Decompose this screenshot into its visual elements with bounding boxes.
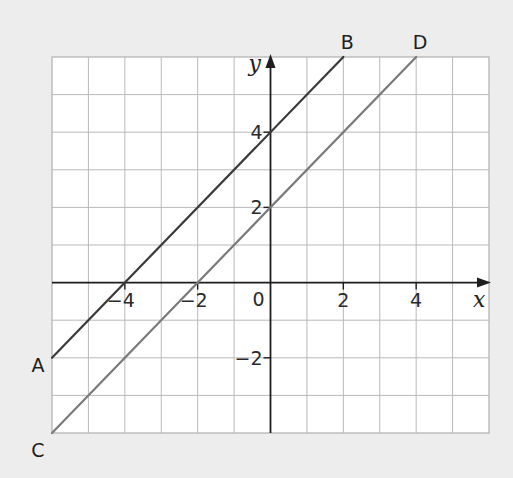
x-axis-label: x <box>473 287 486 312</box>
point-label-b: B <box>341 31 354 53</box>
x-tick-label: 2 <box>337 289 349 311</box>
x-tick-label: 4 <box>410 289 422 311</box>
y-tick-label: 4 <box>250 121 262 143</box>
y-tick-label: 2 <box>250 196 262 218</box>
x-tick-label: −2 <box>180 289 208 311</box>
y-axis-label: y <box>248 51 262 76</box>
x-tick-label: −4 <box>107 289 135 311</box>
origin-label: 0 <box>253 288 265 310</box>
coordinate-graph: x y 0 −4−22442−2 ABCD <box>0 0 513 478</box>
point-label-c: C <box>31 439 44 461</box>
point-label-a: A <box>32 354 45 376</box>
y-tick-label: −2 <box>234 347 262 369</box>
point-label-d: D <box>413 31 428 53</box>
